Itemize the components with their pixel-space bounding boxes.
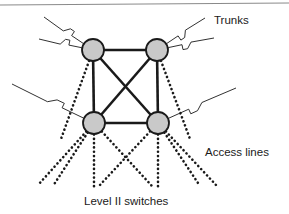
level-ii-switch-bottom-right[interactable] (147, 112, 169, 134)
access-lines-label: Access lines (205, 147, 269, 159)
level-ii-switch-bottom-left[interactable] (83, 112, 105, 134)
trunks-label: Trunks (214, 15, 249, 27)
network-diagram-svg (0, 0, 289, 214)
level-ii-switches-label: Level II switches (84, 196, 168, 208)
network-diagram-canvas: Trunks Access lines Level II switches (0, 0, 289, 214)
level-ii-switch-top-right[interactable] (146, 39, 168, 61)
level-ii-switch-top-left[interactable] (82, 39, 104, 61)
